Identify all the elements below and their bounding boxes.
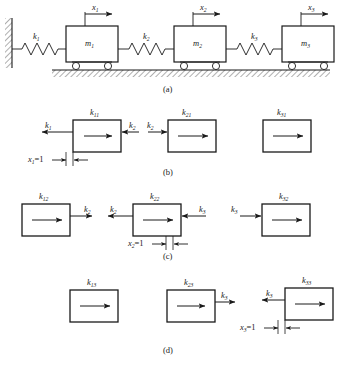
figure-vector-layer <box>0 0 341 366</box>
label-displacement-x2-unit: x2=1 <box>128 239 144 248</box>
fbd-box-k32 <box>262 204 310 236</box>
fbd-box-k21 <box>168 120 216 152</box>
label-displacement-x2: x2 <box>200 3 207 12</box>
label-force-k2-left-b: k2 <box>147 121 154 130</box>
fbd-box-k33 <box>285 288 333 320</box>
displacement-arrow-x1 <box>85 12 112 26</box>
label-displacement-x1-unit: x1=1 <box>28 155 44 164</box>
displacement-arrow-x3 <box>301 12 328 26</box>
label-stiffness-k22: k22 <box>150 192 159 201</box>
label-displacement-x3: x3 <box>308 3 315 12</box>
label-stiffness-k13: k13 <box>87 278 96 287</box>
label-stiffness-k23: k23 <box>184 278 193 287</box>
label-stiffness-k21: k21 <box>182 108 191 117</box>
displacement-arrow-x2 <box>193 12 220 26</box>
panel-caption-b: (b) <box>163 167 173 177</box>
label-force-k2-right-b: k2 <box>129 121 136 130</box>
figure-canvas: k1 k2 k3 m1 m2 m3 x1 x2 x3 (a) k11 k21 k… <box>0 0 341 366</box>
label-stiffness-k12: k12 <box>39 192 48 201</box>
fbd-box-k12 <box>22 204 70 236</box>
spring-k1 <box>12 43 66 55</box>
panel-d-free-body <box>70 288 333 334</box>
fbd-box-k11 <box>73 120 121 152</box>
label-stiffness-k31: k31 <box>277 108 286 117</box>
label-force-k2-a-c: k2 <box>84 205 91 214</box>
label-force-k3-a-d: k3 <box>221 291 228 300</box>
spring-k2 <box>118 43 174 55</box>
label-force-k1-b: k1 <box>45 121 52 130</box>
panel-a-physical-system <box>5 12 334 77</box>
fbd-box-k13 <box>70 290 118 322</box>
spring-k3 <box>226 43 282 55</box>
label-spring-k1: k1 <box>33 32 40 41</box>
fbd-box-k31 <box>263 120 311 152</box>
label-mass-m3: m3 <box>301 39 310 48</box>
label-displacement-x3-unit: x3=1 <box>240 323 256 332</box>
label-force-k3-b-d: k3 <box>266 289 273 298</box>
fixed-wall <box>5 18 12 68</box>
panel-b-free-body <box>42 120 311 166</box>
label-mass-m1: m1 <box>85 39 94 48</box>
label-mass-m2: m2 <box>193 39 202 48</box>
label-stiffness-k11: k11 <box>90 108 99 117</box>
label-force-k3-b-c: k3 <box>231 205 238 214</box>
label-force-k3-a-c: k3 <box>199 205 206 214</box>
displacement-marker-x2 <box>152 236 188 250</box>
label-displacement-x1: x1 <box>92 3 99 12</box>
label-stiffness-k33: k33 <box>302 276 311 285</box>
displacement-marker-x3 <box>264 320 300 334</box>
panel-caption-a: (a) <box>163 84 172 94</box>
fbd-box-k23 <box>167 290 215 322</box>
label-stiffness-k32: k32 <box>279 192 288 201</box>
ground-surface <box>52 70 330 77</box>
label-spring-k2: k2 <box>143 32 150 41</box>
panel-c-free-body <box>22 204 310 250</box>
displacement-marker-x1 <box>52 152 88 166</box>
label-force-k2-b-c: k2 <box>110 205 117 214</box>
fbd-box-k22 <box>133 204 181 236</box>
panel-caption-c: (c) <box>163 251 172 261</box>
label-spring-k3: k3 <box>251 32 258 41</box>
panel-caption-d: (d) <box>163 345 173 355</box>
